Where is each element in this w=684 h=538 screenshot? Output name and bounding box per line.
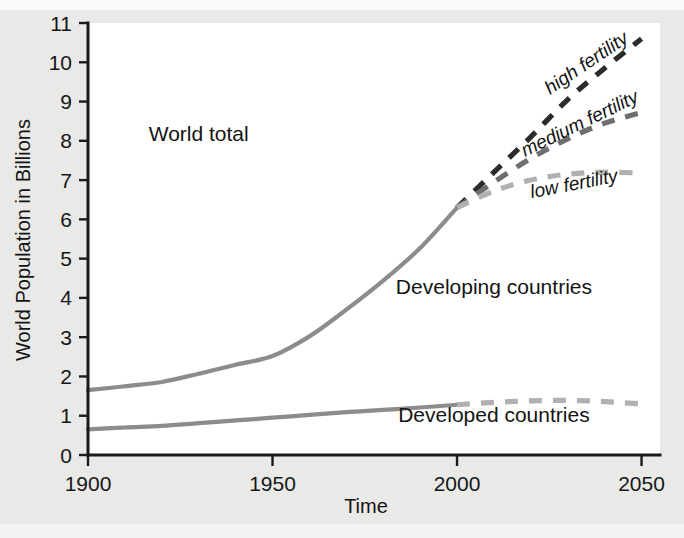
plot-background — [88, 23, 660, 455]
x-tick-label: 1950 — [249, 472, 296, 495]
y-tick-label: 7 — [60, 169, 72, 192]
x-tick-label: 2050 — [618, 472, 665, 495]
y-tick-label: 1 — [60, 404, 72, 427]
y-tick-label: 5 — [60, 247, 72, 270]
y-tick-label: 6 — [60, 208, 72, 231]
y-tick-label: 4 — [60, 286, 72, 309]
y-tick-label: 2 — [60, 365, 72, 388]
y-tick-label: 11 — [50, 12, 72, 35]
y-tick-label: 0 — [60, 444, 72, 467]
y-axis-title: World Population in Billions — [12, 119, 34, 361]
y-tick-label: 3 — [60, 326, 72, 349]
x-tick-label: 1900 — [65, 472, 112, 495]
annotation-world-total: World total — [149, 122, 249, 145]
x-axis-title: Time — [344, 495, 388, 517]
y-tick-label: 9 — [60, 90, 72, 113]
annotation-developing-countries: Developing countries — [396, 275, 592, 298]
y-tick-label: 10 — [49, 51, 72, 74]
population-projection-chart: 012345678910111900195020002050 World tot… — [0, 0, 684, 538]
chart-page: 012345678910111900195020002050 World tot… — [0, 0, 684, 538]
x-tick-label: 2000 — [434, 472, 481, 495]
y-tick-label: 8 — [60, 129, 72, 152]
annotation-developed-countries: Developed countries — [398, 403, 589, 426]
